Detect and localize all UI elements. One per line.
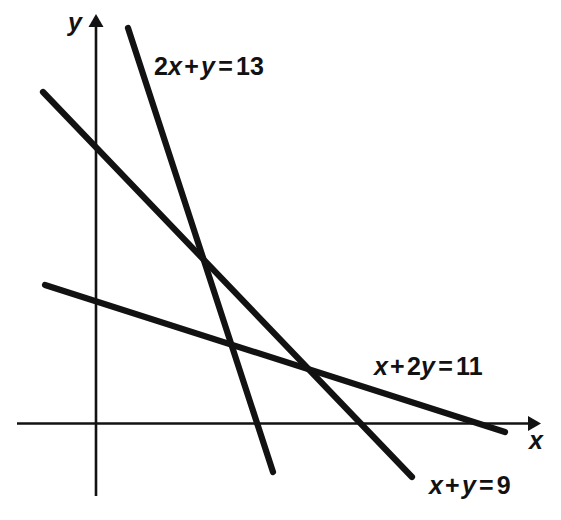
y-axis-label: y (68, 10, 82, 35)
linear-system-figure: 2x+y=13 x+2y=11 x+y=9 y x (0, 0, 561, 520)
equation-constant: 9 (497, 471, 511, 499)
equation-constant: 13 (236, 52, 264, 80)
equation-equals-sign: = (479, 471, 494, 499)
equation-label-x-plus-y-equals-9: x+y=9 (429, 473, 511, 498)
equation-variable-x: x (429, 471, 443, 499)
line-2x-plus-y-equals-13 (128, 28, 273, 472)
graph-canvas (0, 0, 561, 520)
x-axis-label: x (529, 428, 543, 453)
equation-variable-y: y (462, 471, 476, 499)
equation-constant: 11 (456, 352, 483, 380)
equation-variable-y: y (201, 52, 215, 80)
equation-variable-y: y (421, 352, 435, 380)
equation-label-x-plus-2y-equals-11: x+2y=11 (374, 354, 483, 379)
equation-variable-x: x (168, 52, 182, 80)
equation-label-2x-plus-y-equals-13: 2x+y=13 (154, 54, 264, 79)
equation-coefficient: 2 (407, 352, 421, 380)
equation-equals-sign: = (438, 352, 453, 380)
y-axis-arrow-icon (89, 14, 104, 27)
equation-variable-x: x (374, 352, 388, 380)
equation-equals-sign: = (218, 52, 233, 80)
equation-plus-sign: + (390, 352, 405, 380)
equation-coefficient: 2 (154, 52, 168, 80)
equation-plus-sign: + (184, 52, 199, 80)
line-x-plus-y-equals-9 (43, 92, 412, 477)
equation-plus-sign: + (445, 471, 460, 499)
